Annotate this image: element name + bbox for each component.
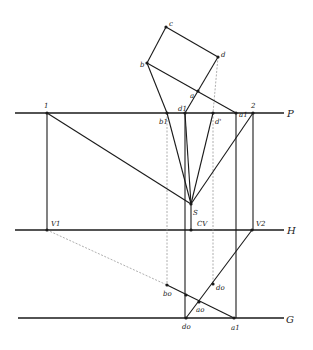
point-b (145, 61, 148, 64)
projection-line (191, 113, 213, 204)
point-a1 (234, 111, 237, 114)
point-c (164, 25, 167, 28)
point-label-b1: b1 (159, 118, 168, 126)
point-s (189, 202, 192, 205)
point-x_mid (184, 293, 187, 296)
construction-line (47, 230, 167, 285)
line-label-h: H (286, 225, 296, 236)
point-label-bo: bo (163, 290, 172, 298)
projection-line (167, 113, 191, 204)
projection-line (147, 27, 166, 63)
projection-line (191, 113, 253, 204)
point-labels: cdba12b1d1d'a1SCVV1V2boaododoa1 (44, 20, 266, 332)
point-label-dprime: d' (215, 118, 221, 126)
projection-line (185, 57, 218, 113)
point-d0 (184, 316, 187, 319)
projection-line (147, 63, 236, 113)
point-label-d: d (221, 51, 226, 59)
point-1 (45, 111, 48, 114)
point-a1g (232, 316, 235, 319)
point-label-s: S (193, 209, 198, 217)
point-label-v1: V1 (51, 220, 61, 228)
drawing-canvas: PHG cdba12b1d1d'a1SCVV1V2boaododoa1 (0, 0, 313, 350)
point-label-a1g: a1 (231, 324, 240, 332)
reference-lines: PHG (15, 108, 296, 325)
projection-line (186, 230, 252, 318)
projection-line (147, 63, 167, 113)
projection-lines (47, 27, 253, 318)
point-label-do: do (216, 284, 225, 292)
point-a (196, 89, 199, 92)
point-2 (251, 111, 254, 114)
point-do (211, 282, 214, 285)
point-label-a: a (190, 92, 194, 100)
perspective-diagram: PHG cdba12b1d1d'a1SCVV1V2boaododoa1 (0, 0, 313, 350)
point-label-d0: do (182, 323, 191, 331)
point-v1 (45, 228, 48, 231)
construction-line (213, 57, 218, 113)
point-label-cv: CV (197, 220, 208, 228)
point-d (216, 55, 219, 58)
point-label-2: 2 (250, 102, 256, 110)
point-bo (165, 283, 168, 286)
projection-line (47, 113, 191, 204)
point-cv (189, 228, 192, 231)
point-label-c: c (169, 20, 173, 28)
point-dprime (211, 111, 214, 114)
point-label-b: b (140, 61, 145, 69)
point-label-a1: a1 (239, 111, 248, 119)
projection-line (166, 27, 218, 57)
point-label-v2: V2 (256, 220, 266, 228)
point-label-ao: ao (196, 306, 204, 314)
point-label-1: 1 (44, 102, 48, 110)
line-label-g: G (286, 314, 294, 325)
point-v2 (250, 228, 253, 231)
projection-line (185, 113, 191, 204)
point-label-d1: d1 (178, 105, 187, 113)
point-ao (197, 300, 200, 303)
line-label-p: P (286, 108, 294, 119)
point-b1 (165, 111, 168, 114)
